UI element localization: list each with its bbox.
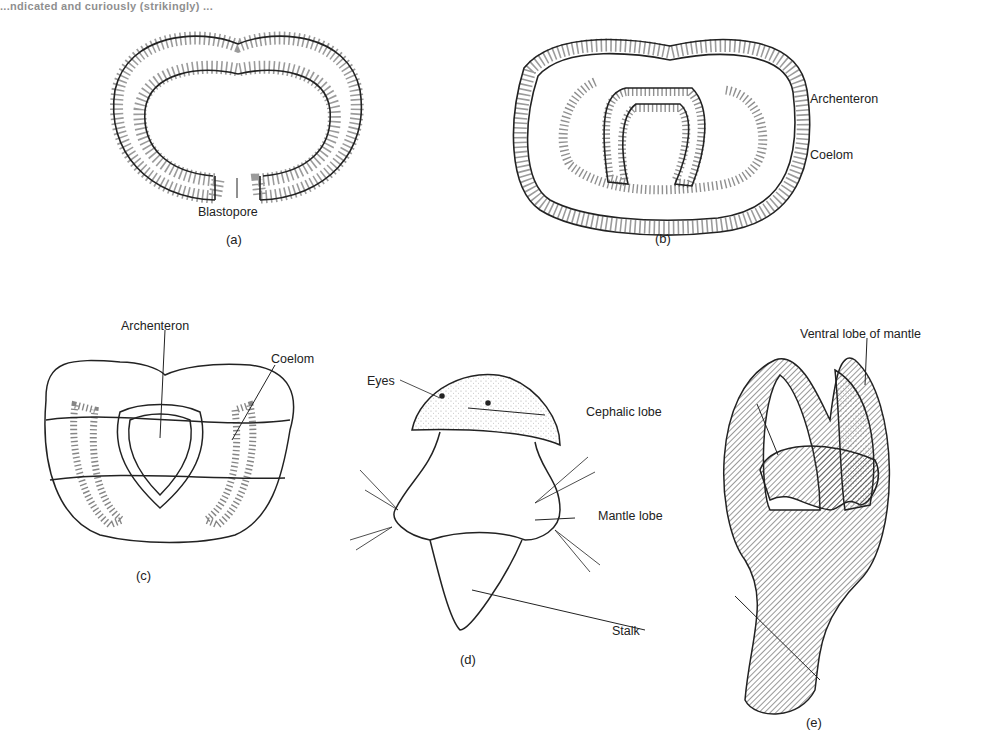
label-archenteron-b: Archenteron — [810, 92, 878, 106]
label-coelom-b: Coelom — [810, 148, 853, 162]
embryo-diagram — [0, 0, 1004, 755]
label-eyes: Eyes — [367, 374, 395, 388]
label-cephalic-lobe: Cephalic lobe — [586, 405, 662, 419]
label-stalk: Stalk — [612, 624, 640, 638]
label-blastopore: Blastopore — [198, 205, 258, 219]
panel-b-gastrula — [513, 40, 809, 235]
panel-c-embryo — [45, 330, 294, 543]
caption-b: (b) — [655, 231, 671, 246]
label-coelom-c: Coelom — [271, 352, 314, 366]
caption-a: (a) — [226, 232, 242, 247]
label-archenteron-c: Archenteron — [121, 319, 189, 333]
caption-d: (d) — [460, 652, 476, 667]
caption-c: (c) — [136, 568, 151, 583]
label-ventral-lobe: Ventral lobe of mantle — [800, 327, 921, 341]
caption-e: (e) — [806, 715, 822, 730]
panel-a-gastrula — [114, 36, 362, 200]
label-mantle-lobe: Mantle lobe — [598, 509, 663, 523]
panel-e-larva — [724, 338, 890, 714]
